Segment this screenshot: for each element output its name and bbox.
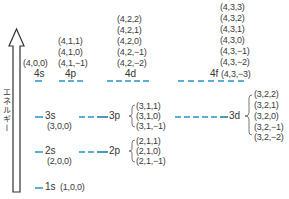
quantum-number: (4,0,0) (23, 58, 48, 69)
orbital-label: 4d (125, 68, 136, 79)
level-line (184, 116, 190, 118)
level-line (143, 80, 149, 82)
level-line (88, 116, 94, 118)
quantum-number: (4,3,2) (220, 13, 245, 24)
quantum-number: (4,1,1) (58, 36, 83, 47)
quantum-number: (3,2,2) (254, 89, 279, 100)
level-line (79, 151, 85, 153)
quantum-number: (4,3,−2) (220, 57, 250, 68)
level-line (211, 116, 217, 118)
level-line (198, 80, 204, 82)
orbital-label: 3p (109, 110, 120, 121)
level-line (202, 116, 208, 118)
quantum-number: (4,3,1) (220, 24, 245, 35)
quantum-number: (3,0,0) (47, 121, 72, 132)
level-line (218, 80, 224, 82)
quantum-number: (4,3,3) (220, 2, 245, 13)
quantum-number: (4,1,−1) (58, 58, 88, 69)
orbital-label: 2s (45, 145, 56, 156)
quantum-number: (4,3,0) (220, 35, 245, 46)
orbital-label: 2p (109, 145, 120, 156)
quantum-number: (2,1,0) (136, 146, 161, 157)
orbital-label: 1s (45, 181, 56, 192)
level-line (35, 80, 42, 82)
quantum-number: (3,1,0) (136, 111, 161, 122)
quantum-number: (4,2,−1) (117, 47, 147, 58)
quantum-number: (2,1,1) (136, 136, 161, 147)
level-line (193, 116, 199, 118)
quantum-number: (4,2,2) (117, 14, 142, 25)
level-line (59, 80, 65, 82)
level-line (97, 151, 108, 153)
level-line (125, 80, 131, 82)
quantum-number: (2,0,0) (47, 156, 72, 167)
level-line (220, 116, 228, 118)
quantum-number: (2,1,−1) (136, 156, 166, 167)
quantum-number: (4,1,0) (58, 47, 83, 58)
level-line (116, 80, 122, 82)
quantum-number: (3,1,−1) (136, 121, 166, 132)
level-line (79, 116, 85, 118)
quantum-number: (3,1,1) (136, 101, 161, 112)
level-line (208, 80, 214, 82)
level-line (178, 80, 184, 82)
quantum-number: (4,2,−2) (117, 58, 147, 69)
level-line (35, 187, 43, 189)
level-line (97, 116, 108, 118)
quantum-number: (4,3,−3) (221, 69, 251, 80)
level-line (228, 80, 234, 82)
energy-axis-label: エネルギー (0, 88, 11, 133)
quantum-number: (4,2,1) (117, 25, 142, 36)
brace-icon (128, 139, 136, 163)
level-line (35, 116, 43, 118)
quantum-number: (1,0,0) (60, 182, 85, 193)
level-line (107, 80, 113, 82)
quantum-number: (4,3,−1) (220, 46, 250, 57)
level-line (238, 80, 244, 82)
quantum-number: (3,2,0) (254, 111, 279, 122)
quantum-number: (3,2,1) (254, 100, 279, 111)
level-line (68, 80, 74, 82)
quantum-number: (3,2,−1) (254, 122, 284, 133)
level-line (77, 80, 83, 82)
orbital-label: 4p (65, 68, 76, 79)
quantum-number: (4,2,0) (117, 36, 142, 47)
level-line (175, 116, 181, 118)
brace-icon (244, 94, 253, 138)
orbital-label: 4s (34, 68, 45, 79)
orbital-label: 3d (229, 110, 240, 121)
orbital-label: 4f (210, 68, 218, 79)
level-line (88, 151, 94, 153)
level-line (188, 80, 194, 82)
level-line (35, 151, 43, 153)
level-line (134, 80, 140, 82)
brace-icon (128, 104, 136, 128)
quantum-number: (3,2,−2) (254, 132, 284, 143)
orbital-label: 3s (45, 110, 56, 121)
